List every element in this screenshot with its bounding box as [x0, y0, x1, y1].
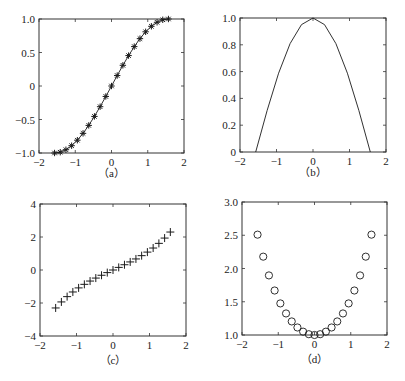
circle-marker: [334, 318, 341, 325]
plus-marker: [143, 248, 151, 256]
circle-marker: [265, 272, 272, 279]
asterisk-marker: [86, 122, 92, 128]
asterisk-marker: [154, 19, 160, 25]
y-tick-label: 0.8: [222, 39, 236, 51]
x-tick-label: 2: [384, 338, 390, 350]
y-tick-label: 2.0: [224, 263, 238, 275]
axes-frame: [242, 202, 387, 335]
plus-marker: [166, 228, 174, 236]
y-tick-label: 0: [30, 80, 36, 92]
data-line: [256, 18, 371, 152]
circle-marker: [368, 231, 375, 238]
x-tick-label: 1: [147, 339, 153, 351]
asterisk-marker: [103, 93, 109, 99]
asterisk-marker: [120, 62, 126, 68]
plus-marker: [57, 298, 65, 306]
circle-marker: [362, 253, 369, 260]
subplot-b: −2−101200.20.40.60.81.0（b）: [222, 12, 389, 178]
circle-marker: [260, 253, 267, 260]
x-tick-label: −1: [71, 339, 83, 351]
x-tick-label: 1: [348, 338, 354, 350]
circle-marker: [288, 318, 295, 325]
plus-marker: [149, 244, 157, 252]
x-tick-label: 0: [312, 338, 318, 350]
y-tick-label: 0.4: [222, 92, 236, 104]
subplot-a: −2−1012−1.0−0.500.51.0（a）: [15, 13, 187, 179]
plus-marker: [155, 239, 163, 247]
circle-marker: [277, 300, 284, 307]
circle-marker: [356, 272, 363, 279]
x-tick-label: −1: [271, 155, 283, 167]
asterisk-marker: [131, 43, 137, 49]
y-tick-label: 1.0: [21, 13, 35, 25]
y-tick-label: 0.5: [21, 47, 35, 59]
circle-marker: [254, 231, 261, 238]
y-tick-label: 0.6: [222, 66, 236, 78]
subplot-d: −2−10121.01.52.02.53.0（d）: [224, 196, 390, 365]
asterisk-marker: [108, 83, 114, 89]
y-tick-label: 4: [31, 198, 37, 210]
y-tick-label: 1.0: [224, 329, 238, 341]
circle-marker: [328, 324, 335, 331]
x-tick-label: 1: [347, 155, 353, 167]
subplot-c: −2−1012−4−2024（c）: [24, 198, 188, 366]
asterisk-marker: [63, 147, 69, 153]
asterisk-marker: [114, 72, 120, 78]
figure-canvas: −2−1012−1.0−0.500.51.0（a） −2−101200.20.4…: [0, 0, 405, 381]
asterisk-marker: [68, 142, 74, 148]
circle-marker: [351, 287, 358, 294]
y-tick-label: −0.5: [15, 114, 35, 126]
subplot-caption: （d）: [301, 353, 329, 365]
x-tick-label: 2: [183, 339, 189, 351]
asterisk-marker: [148, 23, 154, 29]
plus-marker: [63, 293, 71, 301]
y-tick-label: 2.5: [224, 229, 238, 241]
x-tick-label: −1: [272, 338, 284, 350]
circle-marker: [282, 310, 289, 317]
asterisk-marker: [165, 16, 171, 22]
x-tick-label: 0: [110, 339, 116, 351]
asterisk-marker: [125, 52, 131, 58]
circle-marker: [339, 310, 346, 317]
asterisk-marker: [97, 104, 103, 110]
asterisk-marker: [91, 113, 97, 119]
asterisk-marker: [51, 150, 57, 156]
circle-marker: [345, 300, 352, 307]
x-tick-label: −1: [69, 156, 81, 168]
y-tick-label: 0.2: [222, 119, 236, 131]
y-tick-label: −1.0: [15, 147, 35, 159]
y-tick-label: 0: [231, 146, 237, 158]
y-tick-label: 1.5: [224, 296, 238, 308]
y-tick-label: 0: [31, 264, 37, 276]
plus-marker: [75, 284, 83, 292]
y-tick-label: 3.0: [224, 196, 238, 208]
asterisk-marker: [160, 17, 166, 23]
subplot-caption: （a）: [98, 167, 125, 179]
x-tick-label: 1: [145, 156, 151, 168]
y-tick-label: 2: [31, 231, 37, 243]
plus-marker: [52, 304, 60, 312]
y-tick-label: −2: [24, 297, 36, 309]
y-tick-label: 1.0: [222, 12, 236, 24]
axes-frame: [240, 18, 386, 152]
x-tick-label: 2: [181, 156, 187, 168]
plus-marker: [69, 288, 77, 296]
x-tick-label: 2: [383, 155, 389, 167]
subplot-caption: （b）: [299, 166, 327, 178]
plus-marker: [161, 234, 169, 242]
circle-marker: [271, 287, 278, 294]
asterisk-marker: [57, 149, 63, 155]
subplot-caption: （c）: [100, 354, 127, 366]
y-tick-label: −4: [24, 330, 36, 342]
